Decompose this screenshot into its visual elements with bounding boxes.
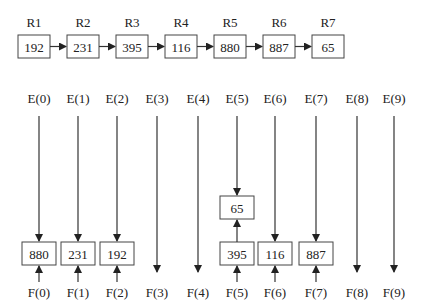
record-label: R3 (124, 15, 139, 30)
record-value: 231 (73, 40, 93, 55)
bucket-item-value: 231 (68, 247, 88, 262)
record-label: R1 (26, 15, 41, 30)
bucket-tail-label: F(4) (187, 285, 209, 300)
bucket-item-value: 65 (231, 201, 244, 216)
record-label: R6 (271, 15, 287, 30)
bucket-head-label: E(8) (345, 91, 368, 106)
record-label: R7 (320, 15, 336, 30)
record-value: 116 (171, 40, 191, 55)
record-value: 192 (24, 40, 44, 55)
bucket-tail-label: F(1) (67, 285, 89, 300)
bucket-head-label: E(2) (105, 91, 128, 106)
bucket-tail-label: F(8) (346, 285, 368, 300)
bucket-item-value: 395 (227, 247, 247, 262)
bucket-tail-label: F(7) (305, 285, 327, 300)
bucket-head-label: E(4) (186, 91, 209, 106)
record-label: R2 (75, 15, 90, 30)
bucket-tail-label: F(2) (106, 285, 128, 300)
bucket-grid: E(0)F(0)880E(1)F(1)231E(2)F(2)192E(3)F(3… (22, 91, 406, 300)
record-value: 880 (220, 40, 240, 55)
bucket-head-label: E(6) (263, 91, 286, 106)
bucket-item-value: 192 (107, 247, 127, 262)
record-chain: R1192R2231R3395R4116R5880R6887R765 (18, 15, 344, 58)
record-value: 395 (122, 40, 142, 55)
bucket-tail-label: F(5) (226, 285, 248, 300)
radix-sort-diagram: R1192R2231R3395R4116R5880R6887R765 E(0)F… (0, 0, 432, 300)
bucket-tail-label: F(6) (264, 285, 286, 300)
bucket-head-label: E(3) (145, 91, 168, 106)
bucket-tail-label: F(0) (28, 285, 50, 300)
record-value: 65 (322, 40, 335, 55)
record-label: R5 (222, 15, 237, 30)
bucket-item-value: 887 (306, 247, 326, 262)
record-label: R4 (173, 15, 189, 30)
record-value: 887 (269, 40, 289, 55)
bucket-head-label: E(0) (27, 91, 50, 106)
bucket-tail-label: F(3) (146, 285, 168, 300)
bucket-item-value: 116 (265, 247, 285, 262)
bucket-tail-label: F(9) (383, 285, 405, 300)
bucket-head-label: E(5) (225, 91, 248, 106)
bucket-item-value: 880 (29, 247, 49, 262)
bucket-head-label: E(7) (304, 91, 327, 106)
bucket-head-label: E(1) (66, 91, 89, 106)
bucket-head-label: E(9) (382, 91, 405, 106)
